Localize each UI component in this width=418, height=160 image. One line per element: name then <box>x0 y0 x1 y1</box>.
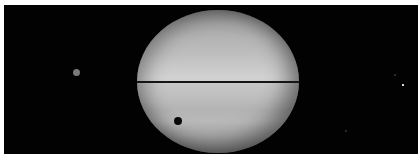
ring-plane-line <box>137 81 299 83</box>
faint-moon <box>394 74 396 76</box>
moon-shadow <box>174 117 182 125</box>
moon-right <box>402 84 404 86</box>
space-background <box>4 5 418 154</box>
moon-left <box>73 69 80 76</box>
faint-moon <box>345 130 347 132</box>
